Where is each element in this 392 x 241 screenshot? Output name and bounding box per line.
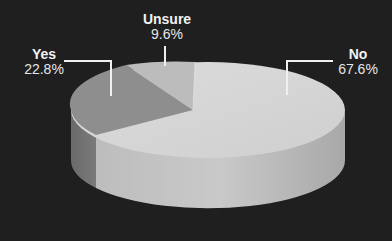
label-unsure-name: Unsure [137, 12, 197, 27]
label-unsure-pct: 9.6% [137, 27, 197, 42]
label-unsure: Unsure 9.6% [137, 12, 197, 42]
label-no-name: No [334, 47, 382, 62]
label-yes: Yes 22.8% [20, 47, 68, 77]
label-no-pct: 67.6% [334, 62, 382, 77]
label-yes-pct: 22.8% [20, 62, 68, 77]
label-no: No 67.6% [334, 47, 382, 77]
label-yes-name: Yes [20, 47, 68, 62]
